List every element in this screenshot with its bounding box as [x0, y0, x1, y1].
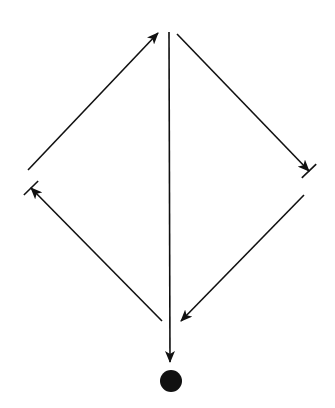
edges-group: [28, 32, 309, 362]
edge-right-lower-arrow: [181, 195, 304, 321]
edge-center-vertical-arrow: [169, 32, 170, 362]
terminal-node-dot: [160, 370, 182, 392]
edge-left-upper-arrow: [28, 33, 158, 170]
edge-right-upper-arrow: [177, 34, 309, 171]
edge-left-lower-arrow: [31, 188, 162, 321]
diagram-canvas: [0, 0, 335, 408]
